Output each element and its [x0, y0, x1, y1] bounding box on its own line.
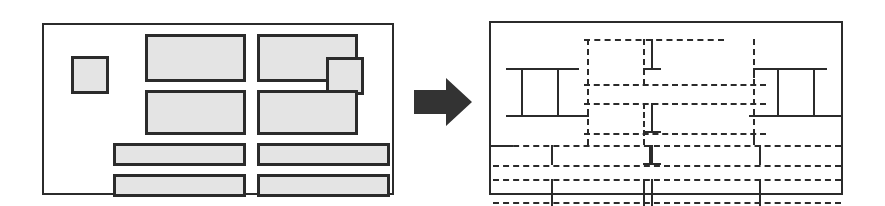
seg-h-full-2	[493, 165, 841, 167]
block-top-left	[145, 34, 246, 82]
seg-v-rpair-right	[813, 68, 815, 115]
arrow-right-icon	[412, 76, 474, 128]
seg-v-left-col	[587, 39, 589, 145]
seg-v-bot2-cB	[651, 179, 653, 206]
seg-h-center-b-cap	[643, 131, 661, 133]
seg-v-right-step	[753, 133, 755, 145]
transformation-arrow	[412, 76, 474, 128]
seg-h-full-1	[493, 145, 841, 147]
seg-h-center-b	[584, 103, 766, 105]
seg-v-bot-right	[759, 145, 761, 165]
seg-v-bot2-right	[759, 179, 761, 206]
block-small-square-left	[71, 56, 109, 94]
seg-h-right-upper	[755, 68, 827, 70]
seg-v-rpair-left	[777, 68, 779, 115]
right-panel-segmented-layout	[489, 21, 843, 195]
seg-v-center-a-tick	[651, 39, 653, 69]
seg-v-bot2-left	[551, 179, 553, 206]
seg-h-frame-tie-left	[491, 145, 513, 147]
figure-root	[0, 0, 885, 206]
block-bar-row4-right	[257, 174, 390, 197]
seg-h-full-3	[493, 179, 841, 181]
seg-v-bot-left	[551, 145, 553, 165]
seg-v-bot2-cA	[643, 179, 645, 206]
seg-h-frame-tie-right	[821, 115, 841, 117]
block-mid-right	[257, 90, 358, 135]
seg-v-bot-center2	[651, 145, 653, 165]
block-bar-row3-left	[113, 143, 246, 166]
block-bar-row3-right	[257, 143, 390, 166]
seg-v-right-col	[753, 39, 755, 145]
left-panel-original-layout	[42, 23, 394, 195]
seg-v-right-stub	[753, 68, 755, 78]
seg-h-center-a	[584, 84, 766, 86]
seg-v-center-b	[643, 103, 645, 145]
seg-h-center-a-cap	[643, 68, 661, 70]
seg-v-center-b-tick	[651, 103, 653, 133]
seg-h-bot-center-cap	[643, 163, 661, 165]
seg-h-right-lower	[749, 115, 829, 117]
seg-v-center-a	[643, 39, 645, 85]
block-mid-left	[145, 90, 246, 135]
seg-h-left-tick-b	[557, 115, 579, 117]
block-bar-row4-left	[113, 174, 246, 197]
seg-h-left-tick-a	[557, 68, 579, 70]
seg-v-pair-right	[557, 68, 559, 115]
seg-v-pair-left	[521, 68, 523, 115]
seg-h-center-c	[584, 133, 766, 135]
segmentation-grid	[491, 23, 841, 193]
seg-h-full-4	[493, 202, 841, 204]
seg-h-top-mid	[584, 39, 724, 41]
